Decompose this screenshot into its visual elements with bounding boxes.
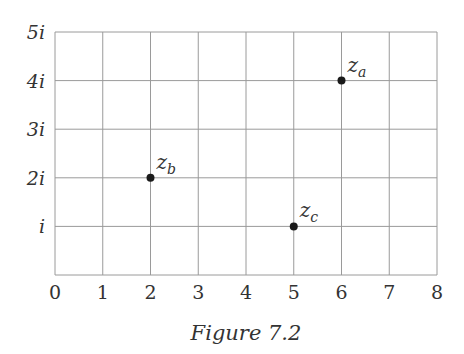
y-tick-label: 5i xyxy=(27,21,45,43)
y-axis-ticks: i2i3i4i5i xyxy=(26,21,45,237)
grid xyxy=(55,32,437,275)
x-axis-ticks: 012345678 xyxy=(49,281,443,303)
point-marker xyxy=(338,77,346,85)
point-label: zb xyxy=(156,150,177,177)
point-marker xyxy=(290,222,298,230)
y-tick-label: i xyxy=(39,215,45,237)
point-marker xyxy=(147,174,155,182)
y-tick-label: 2i xyxy=(26,167,45,189)
point-label: zc xyxy=(299,198,319,225)
x-tick-label: 4 xyxy=(240,281,252,303)
complex-plane-figure: 012345678 i2i3i4i5i zazbzc Figure 7.2 xyxy=(0,0,464,354)
point-label: za xyxy=(347,53,367,80)
x-tick-label: 5 xyxy=(288,281,300,303)
figure-caption: Figure 7.2 xyxy=(190,321,302,345)
data-points: zazbzc xyxy=(147,53,367,231)
x-tick-label: 6 xyxy=(335,281,347,303)
x-tick-label: 2 xyxy=(144,281,156,303)
y-tick-label: 4i xyxy=(26,70,45,92)
x-tick-label: 7 xyxy=(383,281,395,303)
y-tick-label: 3i xyxy=(27,118,45,140)
x-tick-label: 0 xyxy=(49,281,61,303)
x-tick-label: 1 xyxy=(97,281,109,303)
x-tick-label: 8 xyxy=(431,281,443,303)
x-tick-label: 3 xyxy=(192,281,204,303)
